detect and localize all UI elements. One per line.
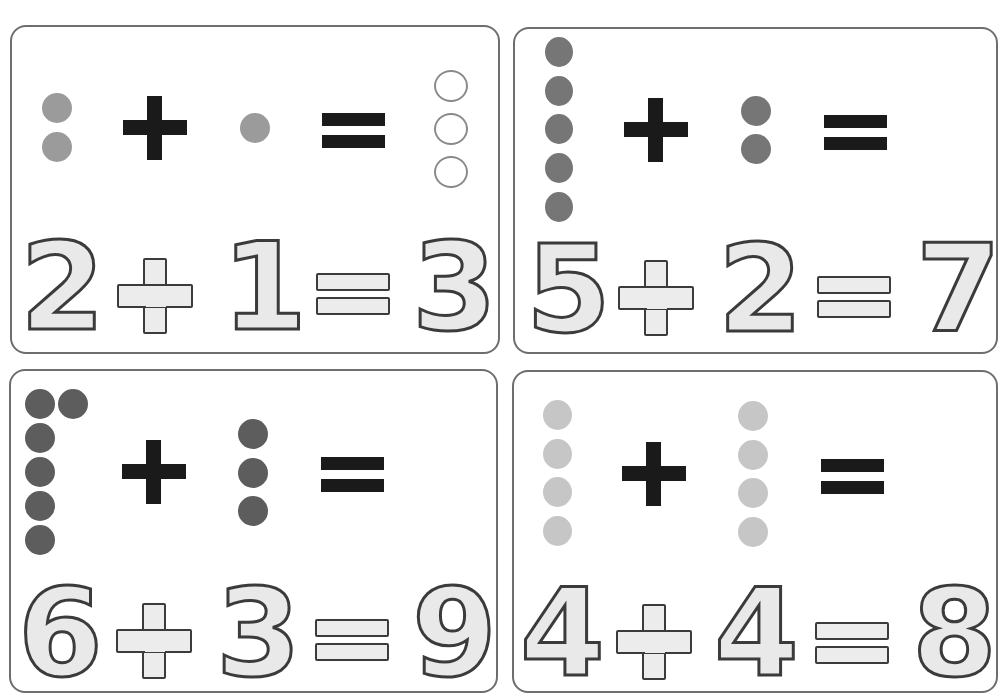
equals-symbol-icon: [821, 459, 884, 495]
trace-plus-icon: [116, 603, 190, 679]
counter-dot: [738, 401, 768, 431]
counter-dot: [42, 93, 72, 123]
trace-digit-a[interactable]: 5: [526, 228, 611, 350]
counter-dot: [25, 389, 55, 419]
equals-symbol-icon: [321, 457, 384, 493]
counter-dot: [42, 132, 72, 162]
trace-plus-icon: [117, 258, 191, 334]
answer-circle[interactable]: [434, 113, 468, 145]
trace-digit-a[interactable]: 2: [20, 226, 105, 348]
answer-circle[interactable]: [434, 156, 468, 188]
trace-digit-result[interactable]: 7: [916, 228, 998, 350]
answer-circle[interactable]: [434, 70, 468, 102]
plus-symbol-icon: [122, 440, 186, 504]
trace-plus-icon: [616, 604, 690, 680]
plus-symbol-icon: [123, 96, 187, 160]
plus-symbol-icon: [624, 98, 688, 162]
trace-digit-a[interactable]: 4: [520, 572, 605, 693]
counter-dot: [545, 114, 573, 144]
counter-dot: [543, 516, 572, 546]
counter-dot: [543, 477, 572, 507]
counter-dot: [238, 496, 268, 526]
counter-dot: [543, 400, 572, 430]
counter-dot: [543, 439, 572, 469]
equals-symbol-icon: [824, 115, 887, 151]
trace-digit-a[interactable]: 6: [18, 572, 103, 693]
counter-dot: [741, 96, 771, 126]
plus-symbol-icon: [622, 442, 686, 506]
trace-equals-icon: [815, 622, 889, 668]
trace-digit-b[interactable]: 1: [222, 226, 307, 348]
trace-digit-b[interactable]: 2: [718, 228, 803, 350]
counter-dot: [25, 491, 55, 521]
counter-dot: [25, 525, 55, 555]
counter-dot: [738, 517, 768, 547]
trace-digit-b[interactable]: 3: [216, 572, 301, 693]
trace-digit-result[interactable]: 3: [412, 226, 497, 348]
counter-dot: [545, 76, 573, 106]
trace-digit-b[interactable]: 4: [714, 572, 799, 693]
equals-symbol-icon: [322, 113, 385, 149]
counter-dot: [25, 423, 55, 453]
counter-dot: [240, 113, 270, 143]
counter-dot: [58, 389, 88, 419]
counter-dot: [738, 440, 768, 470]
counter-dot: [238, 458, 268, 488]
counter-dot: [25, 457, 55, 487]
trace-equals-icon: [315, 619, 389, 665]
trace-digit-result[interactable]: 9: [412, 572, 497, 693]
counter-dot: [545, 37, 573, 67]
counter-dot: [238, 419, 268, 449]
trace-plus-icon: [618, 260, 692, 336]
trace-digit-result[interactable]: 8: [912, 572, 997, 693]
trace-equals-icon: [817, 276, 891, 322]
counter-dot: [738, 478, 768, 508]
counter-dot: [741, 134, 771, 164]
counter-dot: [545, 153, 573, 183]
trace-equals-icon: [316, 273, 390, 319]
